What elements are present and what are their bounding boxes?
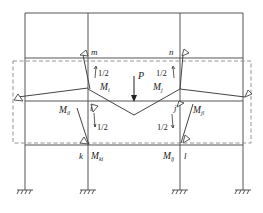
arrow-lower-right-icon (172, 114, 173, 128)
half-lower-right: 1/2 (157, 122, 168, 132)
node-m-label: m (91, 47, 98, 57)
moment-Mi: Mi (99, 82, 110, 93)
moment-Mlj: Mlj (162, 151, 175, 162)
node-l-label: l (184, 151, 187, 161)
moment-Mki: Mki (90, 151, 104, 162)
support-2-icon (80, 190, 96, 194)
moment-Mil: Mil (58, 105, 71, 116)
hinge-l-icon (183, 135, 190, 143)
arrow-upper-left-icon (95, 67, 96, 78)
node-k-label: k (79, 151, 84, 161)
support-4-icon (235, 190, 251, 194)
support-3-icon (172, 190, 188, 194)
moment-Mjl: Mjl (192, 105, 205, 116)
dashed-boundary (13, 61, 251, 143)
load-arrow: P (131, 70, 144, 102)
half-upper-left: 1/2 (98, 68, 109, 78)
half-upper-right: 1/2 (156, 68, 167, 78)
moment-labels: Mi Mj Mil Mjl Mki Mlj (58, 82, 205, 162)
hinge-left-outer-icon (14, 94, 23, 101)
deflection-left-beam (18, 88, 88, 97)
arrow-upper-right-icon (173, 67, 174, 78)
frame-diagram: P m n i j k l 1/2 1/2 1/2 1/2 Mi Mj Mil … (0, 0, 263, 213)
deflection-right-beam (180, 89, 245, 97)
node-j-label: j (173, 103, 177, 113)
deflection-left-column-upper (83, 55, 90, 89)
hinge-m-icon (80, 50, 88, 56)
moment-Mj: Mj (152, 82, 163, 93)
node-n-label: n (169, 47, 174, 57)
node-labels: m n i j k l (79, 47, 187, 161)
support-1-icon (17, 190, 33, 194)
fixed-supports (17, 190, 251, 194)
hinge-n-icon (182, 49, 189, 56)
deflected-shape (18, 55, 245, 145)
load-label: P (137, 70, 144, 81)
half-lower-left: 1/2 (97, 122, 108, 132)
